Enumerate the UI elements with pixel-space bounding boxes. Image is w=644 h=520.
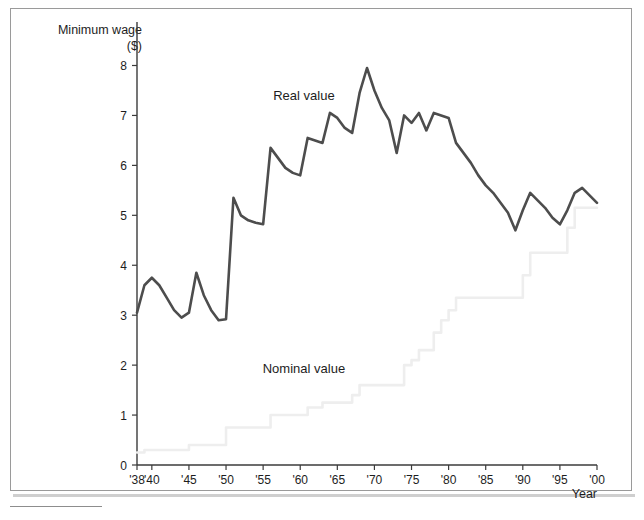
- nominal-value-label: Nominal value: [263, 361, 345, 376]
- y-axis-title-line1: Minimum wage: [58, 23, 142, 37]
- x-tick-label: '70: [367, 473, 383, 487]
- x-tick-label: '50: [218, 473, 234, 487]
- y-axis-title-group: Minimum wage ($): [58, 23, 142, 53]
- y-tick-label: 7: [120, 109, 127, 123]
- y-tick-label: 4: [120, 259, 127, 273]
- y-tick-label: 5: [120, 209, 127, 223]
- x-tick-label: '45: [181, 473, 197, 487]
- x-tick-label: '80: [441, 473, 457, 487]
- nominal-value-line: [137, 208, 597, 453]
- x-axis-title: Year: [572, 487, 597, 501]
- x-tick-label: '90: [515, 473, 531, 487]
- x-tick-label: '75: [404, 473, 420, 487]
- y-tick-label: 8: [120, 59, 127, 73]
- x-tick-label: '38: [129, 473, 145, 487]
- figure-container: Minimum wage ($) 012345678 '38'40'45'50'…: [0, 0, 644, 520]
- x-tick-label: '95: [552, 473, 568, 487]
- y-axis-title-line2: ($): [127, 39, 142, 53]
- real-value-label: Real value: [273, 88, 334, 103]
- real-value-line: [137, 68, 597, 320]
- x-tick-label: '85: [478, 473, 494, 487]
- x-tick-label: '40: [144, 473, 160, 487]
- x-tick-label: '00: [589, 473, 605, 487]
- x-tick-label: '65: [330, 473, 346, 487]
- y-tick-label: 3: [120, 309, 127, 323]
- x-tick-label: '55: [255, 473, 271, 487]
- x-tick-label: '60: [292, 473, 308, 487]
- x-axis-ticks: '38'40'45'50'55'60'65'70'75'80'85'90'95'…: [129, 465, 605, 487]
- line-chart: Minimum wage ($) 012345678 '38'40'45'50'…: [0, 0, 644, 520]
- y-axis-ticks: 012345678: [120, 59, 137, 473]
- y-tick-label: 6: [120, 159, 127, 173]
- y-tick-label: 2: [120, 359, 127, 373]
- y-tick-label: 0: [120, 459, 127, 473]
- y-tick-label: 1: [120, 409, 127, 423]
